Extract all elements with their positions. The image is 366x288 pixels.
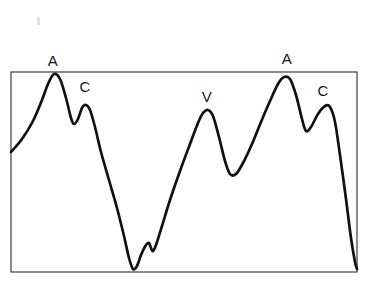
jugular-venous-pressure-trace (11, 74, 357, 270)
label-c-wave-2: C (317, 83, 328, 98)
label-v-wave-1: V (202, 89, 212, 104)
plot-frame (11, 72, 357, 272)
waveform-figure: A C V A C (0, 0, 366, 288)
waveform-plot (0, 0, 366, 288)
label-a-wave-1: A (48, 53, 58, 68)
label-a-wave-2: A (282, 51, 292, 66)
label-c-wave-1: C (79, 79, 90, 94)
